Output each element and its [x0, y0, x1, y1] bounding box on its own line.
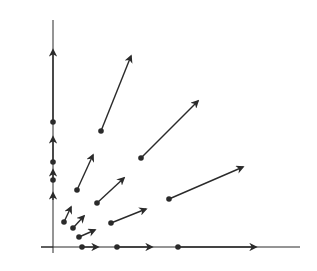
base-point-dot: [74, 187, 80, 193]
arrow-shaft: [169, 167, 243, 199]
vector-arrow: [61, 207, 71, 225]
vector-arrow: [74, 155, 93, 193]
arrow-shaft: [141, 101, 198, 158]
vectors: [50, 50, 256, 250]
vector-arrow: [76, 230, 95, 240]
vector-arrow: [166, 167, 243, 202]
vector-arrow: [70, 216, 84, 231]
base-point-dot: [94, 200, 100, 206]
vector-arrow: [50, 50, 56, 125]
vector-arrow: [50, 170, 56, 183]
arrow-shaft: [111, 209, 146, 223]
vector-arrow: [50, 137, 56, 165]
arrow-shaft: [97, 178, 124, 203]
base-point-dot: [61, 219, 67, 225]
arrow-shaft: [77, 155, 93, 190]
arrow-shaft: [101, 56, 131, 131]
vector-arrow: [108, 209, 146, 226]
base-point-dot: [70, 225, 76, 231]
vector-arrow: [175, 244, 256, 250]
base-point-dot: [166, 196, 172, 202]
base-point-dot: [114, 244, 120, 250]
base-point-dot: [138, 155, 144, 161]
base-point-dot: [50, 159, 56, 165]
base-point-dot: [175, 244, 181, 250]
vector-arrow: [114, 244, 152, 250]
base-point-dot: [79, 244, 85, 250]
vector-arrow: [138, 101, 198, 161]
vector-field-diagram: [0, 0, 317, 271]
base-point-dot: [108, 220, 114, 226]
axes: [41, 20, 300, 253]
vector-arrow: [79, 244, 98, 250]
base-point-dot: [76, 234, 82, 240]
base-point-dot: [50, 177, 56, 183]
vector-arrow: [94, 178, 124, 206]
vector-arrow: [98, 56, 131, 134]
base-point-dot: [98, 128, 104, 134]
base-point-dot: [50, 119, 56, 125]
